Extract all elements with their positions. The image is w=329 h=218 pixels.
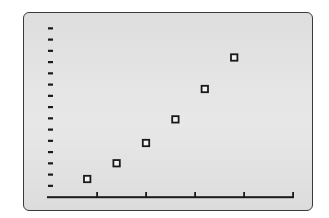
x-axis-line bbox=[47, 196, 294, 198]
y-tick bbox=[48, 50, 53, 52]
x-tick bbox=[145, 192, 147, 197]
y-tick bbox=[48, 84, 53, 86]
x-tick bbox=[292, 192, 294, 197]
data-point-square bbox=[231, 54, 237, 60]
y-tick bbox=[48, 27, 53, 29]
scatter-plot bbox=[0, 0, 329, 218]
y-tick bbox=[48, 185, 53, 187]
data-points bbox=[84, 54, 237, 182]
x-axis bbox=[47, 192, 294, 198]
x-tick bbox=[96, 192, 98, 197]
y-tick bbox=[48, 174, 53, 176]
data-point-square bbox=[202, 86, 208, 92]
x-tick bbox=[194, 192, 196, 197]
y-tick bbox=[48, 61, 53, 63]
y-tick bbox=[48, 162, 53, 164]
x-tick bbox=[243, 192, 245, 197]
y-tick bbox=[48, 117, 53, 119]
data-point-square bbox=[172, 116, 178, 122]
y-tick bbox=[48, 39, 53, 41]
y-tick bbox=[48, 95, 53, 97]
data-point-square bbox=[113, 160, 119, 166]
y-tick bbox=[48, 140, 53, 142]
y-axis-ticks bbox=[48, 27, 53, 187]
data-point-square bbox=[143, 140, 149, 146]
y-tick bbox=[48, 151, 53, 153]
data-point-square bbox=[84, 176, 90, 182]
y-tick bbox=[48, 106, 53, 108]
y-tick bbox=[48, 72, 53, 74]
y-tick bbox=[48, 129, 53, 131]
